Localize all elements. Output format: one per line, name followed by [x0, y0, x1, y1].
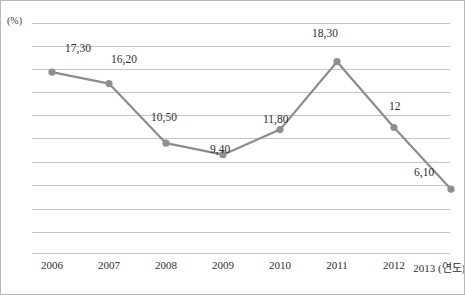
x-tick-label-2007: 2007	[98, 259, 120, 271]
line-chart-figure: (%) 2006 2007 2008 2009 2010 2011 2012 2…	[0, 0, 465, 295]
series-markers	[48, 58, 454, 193]
data-label-2012: 12	[389, 100, 401, 112]
plot-area: (%) 2006 2007 2008 2009 2010 2011 2012 2…	[1, 1, 465, 295]
data-label-2013: 6,10	[414, 166, 434, 178]
data-label-2010: 11,80	[263, 113, 288, 125]
x-tick-label-2009: 2009	[212, 259, 234, 271]
data-point-2010	[276, 126, 283, 133]
x-tick-label-2012: 2012	[383, 259, 405, 271]
data-point-2006	[48, 69, 55, 76]
data-point-2011	[333, 58, 340, 65]
data-label-2008: 10,50	[151, 111, 177, 123]
data-label-2006: 17,30	[65, 42, 91, 54]
data-label-2007: 16,20	[111, 53, 137, 65]
x-tick-label-2006: 2006	[41, 259, 63, 271]
data-label-2009: 9,40	[210, 143, 230, 155]
x-tick-label-2011: 2011	[326, 259, 348, 271]
x-tick-label-2010: 2010	[269, 259, 291, 271]
data-point-2012	[390, 124, 397, 131]
data-label-2011: 18,30	[312, 27, 338, 39]
data-point-2008	[162, 140, 169, 147]
data-point-2013	[447, 186, 454, 193]
y-axis-unit-label: (%)	[7, 15, 22, 26]
x-tick-label-2008: 2008	[155, 259, 177, 271]
x-tick-label-2013-with-unit: 2013 (연도)	[413, 259, 465, 275]
data-point-2007	[105, 80, 112, 87]
